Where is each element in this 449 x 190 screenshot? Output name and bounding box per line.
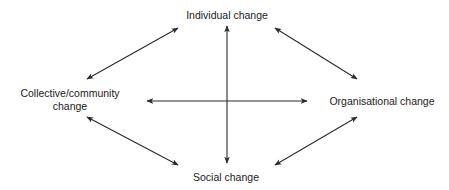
node-label-line1: Collective/community bbox=[8, 87, 132, 100]
arrow-individual-organisational bbox=[275, 28, 357, 79]
arrow-collective-social bbox=[87, 117, 178, 165]
node-label: Individual change bbox=[186, 9, 268, 21]
node-label-line2: change bbox=[8, 100, 132, 113]
change-diagram: Individual change Collective/community c… bbox=[0, 0, 449, 190]
node-individual-change: Individual change bbox=[176, 9, 278, 22]
node-social-change: Social change bbox=[188, 171, 264, 184]
node-label: Social change bbox=[193, 171, 259, 183]
arrow-organisational-social bbox=[275, 117, 357, 165]
node-collective-community-change: Collective/community change bbox=[8, 87, 132, 113]
node-organisational-change: Organisational change bbox=[325, 95, 439, 108]
node-label: Organisational change bbox=[329, 95, 434, 107]
arrow-individual-collective bbox=[87, 28, 178, 79]
